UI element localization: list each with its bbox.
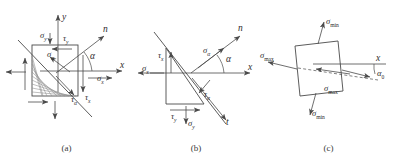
alpha-zero-label-c: α0	[377, 69, 384, 80]
axis-label-x-a: x	[120, 61, 124, 71]
sigma-alpha-label-a: σα	[47, 50, 54, 61]
stress-transformation-figure: y x n α σy τy σα τα τx σx (a)	[0, 0, 399, 161]
tau-y-sub-a: y	[66, 39, 68, 45]
sigma-min-top-sub-c: min	[330, 22, 339, 28]
sigma-x-label-a: σx	[97, 74, 104, 85]
tau-alpha-label-a: τα	[71, 95, 77, 106]
caption-a: (a)	[0, 143, 133, 153]
sigma-min-top-arrow-c	[318, 22, 324, 44]
tau-alpha-label-b: τα	[204, 90, 210, 101]
sigma-max-left-arrow-c	[268, 62, 297, 69]
tau-y-label-b: τy	[171, 112, 177, 123]
tau-alpha-sub-a: α	[74, 100, 77, 106]
sigma-alpha-sub-b: α	[207, 51, 210, 57]
angle-alpha-label-a: α	[90, 52, 95, 62]
sigma-x-label-b: σx	[142, 64, 149, 75]
sigma-alpha-arrow-b	[198, 48, 224, 68]
alpha-zero-arc-c	[374, 64, 375, 74]
cut-region-a	[32, 45, 78, 96]
tau-alpha-arrow-a	[56, 76, 74, 95]
sigma-max-right-label-c: σmax	[324, 84, 338, 95]
sigma-min-bottom-label-c: σmin	[312, 109, 325, 120]
panel-a: y x n α σy τy σα τα τx σx (a)	[0, 0, 133, 161]
tau-y-label-a: τy	[63, 34, 69, 45]
tau-y-sub-b: y	[174, 117, 176, 123]
tau-x-sub-b: x	[161, 56, 163, 62]
sigma-min-bottom-sub-c: min	[316, 114, 325, 120]
tau-alpha-sub-b: α	[207, 95, 210, 101]
tau-x-sub-a: x	[88, 98, 90, 104]
sigma-alpha-label-b: σα	[203, 46, 210, 57]
axis-label-t-b: t	[226, 118, 229, 128]
caption-b: (b)	[126, 143, 266, 153]
tau-x-label-a: τx	[85, 93, 91, 104]
sigma-y-sub-a: y	[44, 36, 46, 42]
angle-alpha-label-b: α	[226, 55, 231, 65]
sigma-max-left-label-c: σmax	[260, 51, 274, 62]
sigma-y-label-a: σy	[40, 31, 47, 42]
tau-x-label-b: τx	[158, 51, 164, 62]
sigma-max-left-sub-c: max	[264, 56, 274, 62]
sigma-y-label-b: σy	[188, 119, 195, 130]
sigma-x-sub-b: x	[146, 69, 148, 75]
sigma-y-sub-b: y	[192, 124, 194, 130]
alpha-zero-sub-c: 0	[381, 74, 384, 80]
normal-n-label-a: n	[103, 25, 108, 35]
caption-c: (c)	[258, 143, 399, 153]
sigma-alpha-sub-a: α	[51, 55, 54, 61]
sigma-max-right-sub-c: max	[328, 89, 338, 95]
axis-label-x-c: x	[376, 54, 380, 64]
axis-label-y-a: y	[62, 13, 66, 23]
wedge-body-b	[166, 48, 204, 104]
sigma-min-top-label-c: σmin	[326, 17, 339, 28]
panel-c: x σmin σmax σmin σmax α0 (c)	[258, 0, 399, 161]
stress-element-square-a	[32, 45, 78, 96]
panel-a-drawing	[0, 0, 133, 161]
alpha-arc-b	[217, 55, 224, 73]
sigma-x-sub-a: x	[101, 79, 103, 85]
panel-b: n x α t τx σx σα τα τy σy (b)	[126, 0, 266, 161]
normal-n-label-b: n	[238, 24, 243, 34]
axis-label-x-b: x	[248, 63, 252, 73]
panel-b-drawing	[126, 0, 266, 161]
principal-axis-dashed-c	[298, 68, 378, 80]
